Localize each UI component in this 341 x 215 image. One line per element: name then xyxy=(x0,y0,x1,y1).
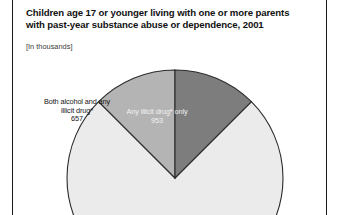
pie-chart-svg xyxy=(12,56,326,215)
pie-chart: Both alcohol and any illicit drug* 657 A… xyxy=(12,56,326,215)
figure-header: Children age 17 or younger living with o… xyxy=(26,7,308,51)
figure-page: Children age 17 or younger living with o… xyxy=(0,0,341,215)
figure-units-note: [In thousands] xyxy=(26,42,308,51)
right-margin-rule xyxy=(326,0,327,215)
figure-title: Children age 17 or younger living with o… xyxy=(26,7,308,32)
